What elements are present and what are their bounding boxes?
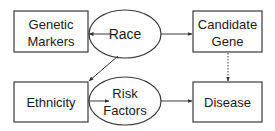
candidate-gene-line2: Gene bbox=[212, 34, 244, 49]
genetic-markers-line1: Genetic bbox=[29, 17, 74, 32]
node-candidate-gene: Candidate Gene bbox=[193, 11, 262, 52]
node-ethnicity: Ethnicity bbox=[14, 82, 88, 122]
diagram-canvas: Genetic Markers Race Candidate Gene Ethn… bbox=[0, 0, 275, 131]
disease-label: Disease bbox=[204, 95, 251, 110]
risk-factors-line1: Risk bbox=[112, 86, 138, 101]
candidate-gene-line1: Candidate bbox=[198, 17, 257, 32]
ethnicity-label: Ethnicity bbox=[26, 95, 76, 110]
node-disease: Disease bbox=[193, 82, 262, 122]
genetic-markers-line2: Markers bbox=[28, 34, 75, 49]
node-genetic-markers: Genetic Markers bbox=[14, 11, 88, 52]
arrow-race-to-ethnicity bbox=[89, 56, 118, 81]
diagram-svg: Genetic Markers Race Candidate Gene Ethn… bbox=[0, 0, 275, 131]
race-label: Race bbox=[109, 26, 142, 42]
risk-factors-line2: Factors bbox=[103, 103, 147, 118]
